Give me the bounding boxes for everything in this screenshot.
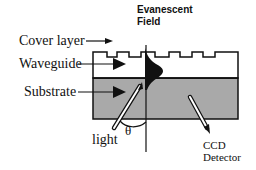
ccd-label-line1: CCD xyxy=(203,139,226,151)
evanescent-label-line1: Evanescent xyxy=(137,4,193,15)
cover-layer-label: Cover layer xyxy=(19,34,85,48)
waveguide-label: Waveguide xyxy=(19,57,82,71)
evanescent-label-line2: Field xyxy=(137,16,160,27)
light-label: light xyxy=(92,133,118,147)
cover-layer-arrowhead-icon xyxy=(105,38,113,44)
theta-arc xyxy=(120,121,146,127)
theta-label: θ xyxy=(125,124,131,137)
ccd-detector-label: CCD Detector xyxy=(203,139,241,163)
substrate-label: Substrate xyxy=(24,85,76,99)
substrate-layer xyxy=(93,78,238,119)
evanescent-field-label: Evanescent Field xyxy=(137,4,193,28)
waveguide-sensor-diagram: Evanescent Field Cover layer Waveguide S… xyxy=(0,0,256,170)
ccd-label-line2: Detector xyxy=(203,151,241,163)
